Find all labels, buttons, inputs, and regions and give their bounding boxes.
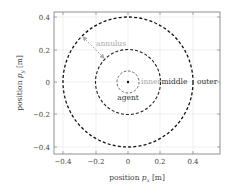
y-axis-label: position py [m] [15, 55, 26, 111]
chart: annulus inner middle outer agent −0.4 −0… [0, 0, 233, 191]
annulus-label: annulus [96, 39, 126, 48]
svg-text:−0.4: −0.4 [55, 158, 73, 166]
agent-point [127, 81, 129, 83]
inner-label: inner [141, 77, 161, 86]
y-tick-labels: 0.4 0.2 0 −0.2 −0.4 [33, 14, 51, 152]
tick-marks [54, 12, 220, 154]
svg-text:−0.4: −0.4 [33, 144, 51, 152]
svg-text:−0.2: −0.2 [88, 158, 105, 166]
outer-label: outer [197, 77, 218, 86]
plot-frame [54, 12, 220, 154]
middle-label: middle [162, 77, 189, 86]
agent-label: agent [117, 93, 139, 102]
svg-text:−0.2: −0.2 [33, 111, 50, 119]
svg-text:0.2: 0.2 [39, 47, 50, 55]
x-axis-label: position px [m] [109, 173, 165, 183]
grid [54, 12, 220, 154]
svg-text:0.4: 0.4 [187, 158, 199, 166]
x-tick-labels: −0.4 −0.2 0 0.2 0.4 [55, 158, 200, 166]
svg-text:0: 0 [46, 79, 50, 87]
svg-text:0.2: 0.2 [154, 158, 165, 166]
svg-text:0: 0 [126, 158, 130, 166]
svg-text:0.4: 0.4 [39, 14, 51, 22]
